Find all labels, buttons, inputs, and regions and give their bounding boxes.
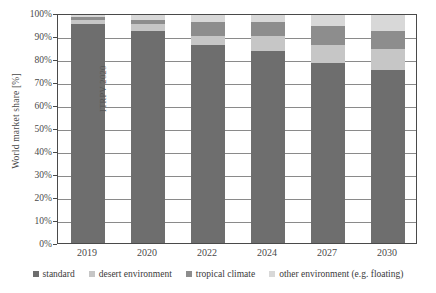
bar-segment[interactable] xyxy=(71,24,105,243)
legend-item[interactable]: standard xyxy=(33,269,75,279)
y-axis-tick-label: 90% xyxy=(0,32,52,42)
stacked-bar[interactable] xyxy=(191,15,225,243)
y-axis-tick-label: 0% xyxy=(0,239,52,249)
bar-segment[interactable] xyxy=(371,15,405,31)
legend-label: other environment (e.g. floating) xyxy=(279,269,403,279)
plot-area xyxy=(57,14,417,244)
bar-segment[interactable] xyxy=(191,45,225,243)
y-axis-tick-label: 50% xyxy=(0,124,52,134)
chart-legend: standarddesert environmenttropical clima… xyxy=(0,269,436,279)
bar-segment[interactable] xyxy=(191,36,225,45)
y-axis-tick-label: 10% xyxy=(0,216,52,226)
y-axis-tick-label: 60% xyxy=(0,101,52,111)
bar-slot xyxy=(178,15,238,243)
legend-item[interactable]: desert environment xyxy=(89,269,172,279)
bar-segment[interactable] xyxy=(191,15,225,22)
bar-slot xyxy=(118,15,178,243)
bar-slot xyxy=(58,15,118,243)
y-axis-tick-label: 70% xyxy=(0,78,52,88)
bar-segment[interactable] xyxy=(251,15,285,22)
x-axis-tick-label: 2030 xyxy=(357,247,417,258)
bar-segment[interactable] xyxy=(371,70,405,243)
bar-segment[interactable] xyxy=(311,63,345,243)
bar-segment[interactable] xyxy=(311,15,345,26)
y-axis-tick-label: 20% xyxy=(0,193,52,203)
bar-segment[interactable] xyxy=(371,49,405,70)
y-axis-tick-mark xyxy=(53,244,57,245)
legend-swatch-icon xyxy=(269,271,275,277)
bar-segment[interactable] xyxy=(191,22,225,36)
annotation-itrpv: ITRPV 2020 xyxy=(98,65,108,112)
bar-segment[interactable] xyxy=(251,51,285,243)
stacked-bar[interactable] xyxy=(371,15,405,243)
legend-label: desert environment xyxy=(99,269,172,279)
stacked-bar[interactable] xyxy=(131,15,165,243)
y-axis-tick-label: 40% xyxy=(0,147,52,157)
bar-slot xyxy=(298,15,358,243)
legend-swatch-icon xyxy=(186,271,192,277)
bar-segment[interactable] xyxy=(131,24,165,31)
y-axis-tick-label: 100% xyxy=(0,9,52,19)
legend-swatch-icon xyxy=(89,271,95,277)
legend-label: standard xyxy=(43,269,75,279)
stacked-bar[interactable] xyxy=(251,15,285,243)
bar-segment[interactable] xyxy=(251,22,285,36)
bar-segment[interactable] xyxy=(311,45,345,63)
y-axis-tick-label: 30% xyxy=(0,170,52,180)
legend-label: tropical climate xyxy=(196,269,255,279)
bar-segment[interactable] xyxy=(311,26,345,44)
x-axis-tick-label: 2019 xyxy=(57,247,117,258)
bar-slot xyxy=(358,15,418,243)
stacked-bar[interactable] xyxy=(71,15,105,243)
bar-segment[interactable] xyxy=(131,31,165,243)
legend-item[interactable]: other environment (e.g. floating) xyxy=(269,269,403,279)
x-axis-tick-label: 2027 xyxy=(297,247,357,258)
legend-swatch-icon xyxy=(33,271,39,277)
x-axis-tick-label: 2020 xyxy=(117,247,177,258)
legend-item[interactable]: tropical climate xyxy=(186,269,255,279)
bar-segment[interactable] xyxy=(371,31,405,49)
bar-slot xyxy=(238,15,298,243)
chart-figure: World market share [%] 0%10%20%30%40%50%… xyxy=(0,0,436,293)
y-axis-tick-label: 80% xyxy=(0,55,52,65)
x-axis-tick-label: 2022 xyxy=(177,247,237,258)
bar-segment[interactable] xyxy=(251,36,285,52)
stacked-bar[interactable] xyxy=(311,15,345,243)
x-axis-tick-label: 2024 xyxy=(237,247,297,258)
